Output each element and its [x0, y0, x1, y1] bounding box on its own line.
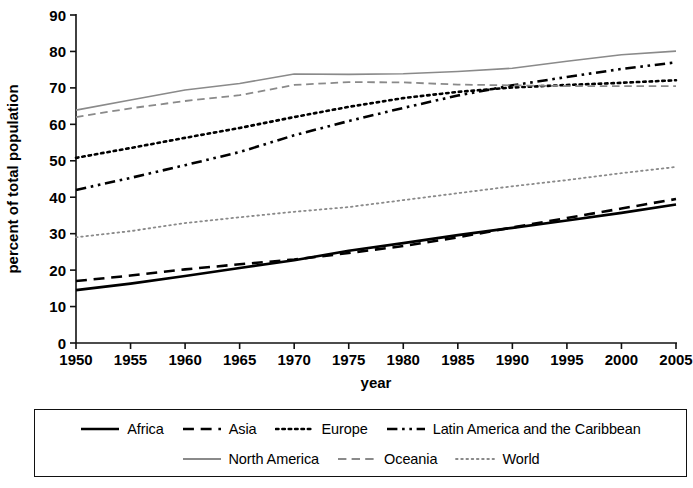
- legend-label: World: [502, 451, 539, 467]
- y-tick-label: 80: [49, 43, 66, 60]
- legend-key-dashed-black: [182, 423, 222, 435]
- legend-label: North America: [229, 451, 320, 467]
- legend-key-dotted-black: [275, 423, 315, 435]
- line-chart: 0102030405060708090195019551960196519701…: [0, 0, 693, 400]
- legend-item-asia[interactable]: Asia: [182, 421, 257, 437]
- x-tick-label: 1950: [59, 351, 92, 368]
- series-line-asia: [76, 199, 676, 281]
- legend-key-solid-gray: [182, 453, 222, 465]
- series-line-latin-america-and-the-caribbean: [76, 62, 676, 190]
- x-tick-label: 1980: [387, 351, 420, 368]
- series-line-oceania: [76, 82, 676, 117]
- legend-item-north-america[interactable]: North America: [182, 451, 320, 467]
- legend-label: Oceania: [384, 451, 437, 467]
- legend-item-oceania[interactable]: Oceania: [337, 451, 437, 467]
- x-tick-label: 1955: [114, 351, 147, 368]
- y-tick-label: 60: [49, 116, 66, 133]
- legend-label: Europe: [322, 421, 368, 437]
- chart-page: 0102030405060708090195019551960196519701…: [0, 0, 693, 488]
- y-tick-label: 0: [58, 335, 66, 352]
- y-tick-label: 90: [49, 7, 66, 24]
- legend-item-world[interactable]: World: [455, 451, 539, 467]
- chart-svg: 0102030405060708090195019551960196519701…: [0, 0, 693, 400]
- chart-legend: AfricaAsiaEuropeLatin America and the Ca…: [34, 409, 687, 477]
- series-line-europe: [76, 80, 676, 158]
- x-tick-label: 2000: [605, 351, 638, 368]
- x-tick-label: 1960: [168, 351, 201, 368]
- legend-label: Asia: [229, 421, 257, 437]
- y-axis-title: percent of total population: [4, 84, 21, 273]
- legend-item-latin-america-and-the-caribbean[interactable]: Latin America and the Caribbean: [386, 421, 641, 437]
- y-tick-label: 70: [49, 79, 66, 96]
- y-tick-label: 20: [49, 262, 66, 279]
- legend-key-dashdotdot-black: [386, 423, 426, 435]
- series-line-africa: [76, 205, 676, 291]
- y-tick-label: 10: [49, 298, 66, 315]
- series-line-world: [76, 167, 676, 237]
- x-tick-label: 1990: [496, 351, 529, 368]
- x-tick-label: 1965: [223, 351, 256, 368]
- x-tick-label: 1995: [550, 351, 583, 368]
- legend-row-1: AfricaAsiaEuropeLatin America and the Ca…: [35, 410, 686, 444]
- y-tick-label: 40: [49, 189, 66, 206]
- legend-item-africa[interactable]: Africa: [80, 421, 163, 437]
- y-tick-label: 30: [49, 225, 66, 242]
- x-tick-label: 1975: [332, 351, 365, 368]
- legend-key-dashed-gray: [337, 453, 377, 465]
- legend-label: Africa: [127, 421, 163, 437]
- x-axis-title: year: [361, 374, 392, 391]
- x-tick-label: 1970: [277, 351, 310, 368]
- legend-key-finedotted-gray: [455, 453, 495, 465]
- x-tick-label: 1985: [441, 351, 474, 368]
- y-tick-label: 50: [49, 152, 66, 169]
- legend-item-europe[interactable]: Europe: [275, 421, 368, 437]
- legend-row-2: North AmericaOceaniaWorld: [35, 444, 686, 474]
- legend-key-solid-black: [80, 423, 120, 435]
- x-tick-label: 2005: [659, 351, 692, 368]
- legend-label: Latin America and the Caribbean: [433, 421, 641, 437]
